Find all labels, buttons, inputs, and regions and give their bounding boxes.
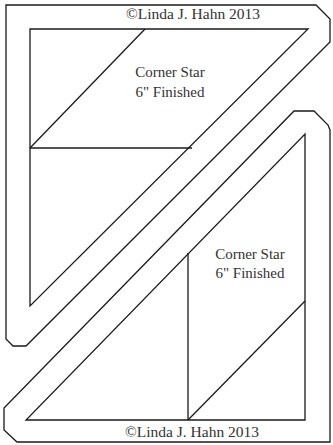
quilt-template-diagram: ©Linda J. Hahn 2013 Corner Star 6" Finis… [0, 0, 333, 445]
bottom-piece-subtitle: 6" Finished [205, 264, 295, 283]
bottom-piece-diagonal-seam [188, 301, 305, 420]
top-piece-subtitle: 6" Finished [125, 83, 215, 102]
bottom-copyright-text: ©Linda J. Hahn 2013 [117, 422, 267, 441]
top-piece-title: Corner Star [130, 63, 210, 82]
top-copyright-text: ©Linda J. Hahn 2013 [118, 4, 268, 23]
bottom-piece-title: Corner Star [210, 245, 290, 264]
